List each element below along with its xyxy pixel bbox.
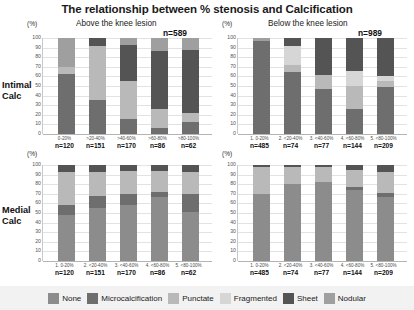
bar-segment-punctate [58, 172, 75, 206]
bar-segment-none [315, 182, 332, 261]
y-axis-tick: 0 [233, 258, 236, 263]
panel-heading-below: Below the knee lesion [268, 19, 348, 28]
y-axis-tick: 100 [227, 162, 236, 167]
y-axis-tick: 60 [230, 74, 236, 79]
stacked-bar[interactable] [346, 38, 363, 134]
y-axis-tick: 40 [230, 220, 236, 225]
category-count-label: n=62 [174, 142, 203, 150]
plot-area: 1009080706050403020100 [237, 38, 407, 134]
stacked-bar[interactable] [151, 165, 168, 261]
bar-segment-microcalcification [58, 205, 75, 215]
stacked-bar[interactable] [182, 38, 199, 134]
legend-item-none[interactable]: None [48, 293, 81, 304]
bar-segment-punctate [89, 46, 106, 101]
bar-segment-none [346, 190, 363, 261]
stacked-bar[interactable] [377, 165, 394, 261]
bar-segment-punctate [315, 167, 332, 182]
legend-swatch-icon [324, 293, 335, 304]
legend-item-punctate[interactable]: Punctate [168, 293, 214, 304]
bar-segment-microcalcification [182, 194, 199, 212]
y-axis-tick: 40 [35, 220, 41, 225]
legend-label: Nodular [338, 294, 366, 303]
bar-segment-sheet [377, 38, 394, 76]
plot-area: 1009080706050403020100 [42, 165, 212, 261]
stacked-bar[interactable] [89, 165, 106, 261]
y-axis-tick: 100 [227, 35, 236, 40]
legend-item-microcalcification[interactable]: Microcalcification [87, 293, 162, 304]
bar-segment-punctate [346, 170, 363, 187]
legend: NoneMicrocalcificationPunctateFragmented… [0, 288, 414, 308]
row-label-medial-line1: Medial [2, 205, 31, 216]
category-count-label: n=209 [369, 142, 398, 150]
y-axis-tick: 90 [35, 45, 41, 50]
bar-segment-punctate [182, 113, 199, 122]
legend-item-fragmented[interactable]: Fragmented [220, 293, 277, 304]
y-axis-tick: 30 [35, 103, 41, 108]
stacked-bar[interactable] [377, 38, 394, 134]
bar-segment-sheet [346, 38, 363, 71]
y-axis-tick: 60 [230, 201, 236, 206]
bar-segment-microcalcification [151, 128, 168, 134]
stacked-bar[interactable] [151, 38, 168, 134]
row-label-intimal-line1: Intimal [2, 80, 32, 91]
bar-segment-microcalcification [315, 89, 332, 134]
page-title: The relationship between % stenosis and … [0, 3, 414, 15]
stacked-bar[interactable] [58, 165, 75, 261]
legend-item-sheet[interactable]: Sheet [283, 293, 318, 304]
gridline [238, 134, 407, 135]
y-axis-tick: 20 [35, 112, 41, 117]
legend-label: Punctate [182, 294, 214, 303]
bar-segment-none [182, 212, 199, 261]
legend-item-nodular[interactable]: Nodular [324, 293, 366, 304]
bar-segment-punctate [120, 81, 137, 118]
bar-segment-nodular [182, 38, 199, 50]
stacked-bar[interactable] [315, 38, 332, 134]
y-axis-tick: 90 [35, 172, 41, 177]
stacked-bar[interactable] [284, 38, 301, 134]
y-axis-tick: 30 [35, 230, 41, 235]
stacked-bar[interactable] [253, 165, 270, 261]
bar-segment-punctate [284, 167, 301, 184]
stacked-bar[interactable] [120, 165, 137, 261]
bar-segment-microcalcification [89, 100, 106, 134]
bar-segment-none [120, 205, 137, 261]
y-axis-tick: 80 [230, 182, 236, 187]
stacked-bar[interactable] [346, 165, 363, 261]
bar-segment-sheet [182, 165, 199, 172]
stacked-bar[interactable] [58, 38, 75, 134]
y-axis-tick: 70 [230, 64, 236, 69]
y-axis-tick: 90 [230, 172, 236, 177]
category-count-label: n=170 [112, 142, 141, 150]
stacked-bar[interactable] [120, 38, 137, 134]
category-count-label: n=485 [245, 142, 274, 150]
row-label-intimal-line2: Calc [2, 91, 32, 102]
bar-segment-punctate [315, 75, 332, 89]
y-axis-tick: 30 [230, 103, 236, 108]
stacked-bar[interactable] [315, 165, 332, 261]
y-axis-tick: 90 [230, 45, 236, 50]
y-axis-tick: 50 [35, 83, 41, 88]
bar-segment-microcalcification [377, 87, 394, 134]
bar-segment-microcalcification [120, 119, 137, 134]
bar-segment-fragmented [346, 71, 363, 86]
bar-segment-microcalcification [253, 41, 270, 134]
bar-segment-microcalcification [284, 72, 301, 134]
y-axis-tick: 10 [230, 249, 236, 254]
chart-page: The relationship between % stenosis and … [0, 0, 414, 310]
stacked-bar[interactable] [284, 165, 301, 261]
bar-segment-sheet [120, 45, 137, 81]
category-count-label: n=151 [81, 142, 110, 150]
bar-segment-none [89, 208, 106, 261]
stacked-bar[interactable] [182, 165, 199, 261]
bar-segment-punctate [58, 67, 75, 75]
legend-swatch-icon [87, 293, 98, 304]
y-axis-tick: 60 [35, 74, 41, 79]
legend-swatch-icon [220, 293, 231, 304]
legend-label: None [62, 294, 81, 303]
category-count-label: n=485 [245, 269, 274, 277]
bar-segment-fragmented [284, 46, 301, 65]
stacked-bar[interactable] [89, 38, 106, 134]
bar-segment-punctate [377, 172, 394, 193]
stacked-bar[interactable] [253, 38, 270, 134]
bar-segment-punctate [151, 109, 168, 128]
